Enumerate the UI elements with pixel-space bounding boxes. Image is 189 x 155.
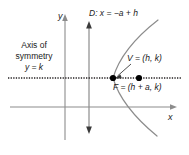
y-axis-label: y bbox=[58, 11, 63, 22]
axis-of-symmetry-label: Axis of symmetry y = k bbox=[6, 40, 62, 73]
focus-point bbox=[136, 75, 142, 81]
directrix-label: D: x = −a + h bbox=[89, 8, 138, 19]
focus-label: F = (h + a, k) bbox=[113, 82, 162, 93]
diagram-canvas bbox=[0, 0, 189, 155]
y-axis bbox=[62, 14, 68, 140]
axis-of-symmetry-label-line2: symmetry bbox=[16, 51, 53, 61]
x-axis-label: x bbox=[168, 112, 173, 123]
axis-of-symmetry-label-line1: Axis of bbox=[21, 40, 47, 50]
vertex-label: V = (h, k) bbox=[127, 53, 162, 64]
vertex-point bbox=[110, 75, 116, 81]
vertex-leader-arrow bbox=[114, 64, 131, 79]
axis-of-symmetry-equation: y = k bbox=[6, 62, 62, 73]
x-axis bbox=[10, 104, 177, 110]
parabola-diagram: y x D: x = −a + h Axis of symmetry y = k… bbox=[0, 0, 189, 155]
